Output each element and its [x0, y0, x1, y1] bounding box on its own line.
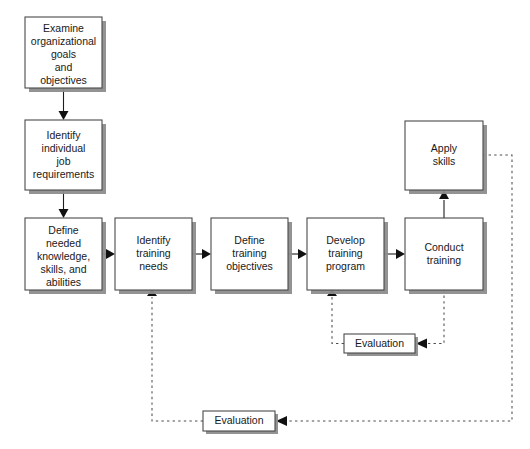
node-identify-job-requirements[interactable]: Identify individual job requirements [25, 120, 106, 194]
arrow-head-conduct-training-inlet [396, 249, 405, 259]
node-label-line: Define [234, 234, 265, 246]
node-develop-training-program[interactable]: Develop training program [307, 218, 388, 294]
node-label-line: objectives [226, 260, 273, 272]
node-label-line: Conduct [424, 241, 463, 253]
node-label-line: training [427, 254, 462, 266]
arrow-head-objectives-inlet [202, 249, 211, 259]
flowchart-canvas: Examine organizational goals and objecti… [0, 0, 530, 449]
node-label-line: goals [51, 48, 76, 60]
node-label-line: training [232, 247, 267, 259]
node-label-line: needed [46, 237, 81, 249]
node-label-line: Apply [431, 142, 458, 154]
node-examine-goals[interactable]: Examine organizational goals and objecti… [25, 17, 106, 92]
node-apply-skills[interactable]: Apply skills [405, 121, 487, 194]
arrow-head-define-knowledge-inlet [59, 209, 69, 218]
node-label-line: skills, and [40, 263, 86, 275]
node-label: Evaluation [355, 337, 404, 349]
node-label-line: training [136, 247, 171, 259]
arrow-head-develop-program-left-inlet [298, 249, 307, 259]
connector-evaluation-lower-to-training-needs [152, 297, 203, 421]
node-label-line: program [326, 260, 365, 272]
node-label-line: Develop [326, 234, 365, 246]
node-label-line: knowledge, [37, 250, 90, 262]
flowchart-svg: Examine organizational goals and objecti… [0, 0, 530, 449]
node-evaluation-lower[interactable]: Evaluation [203, 411, 278, 434]
node-label-line: Examine [43, 22, 84, 34]
node-label: Evaluation [214, 414, 263, 426]
node-label-line: organizational [31, 35, 96, 47]
node-conduct-training[interactable]: Conduct training [405, 218, 487, 294]
node-label-line: objectives [40, 74, 87, 86]
node-label-line: Identify [47, 129, 82, 141]
node-label-line: requirements [33, 168, 94, 180]
connector-conduct-training-to-evaluation-upper [428, 290, 444, 344]
node-label-line: Identify [137, 234, 172, 246]
connector-evaluation-upper-to-develop-program [332, 297, 344, 344]
node-label-line: abilities [46, 276, 81, 288]
node-define-training-objectives[interactable]: Define training objectives [211, 218, 292, 294]
node-label-line: training [328, 247, 363, 259]
node-label-line: skills [433, 155, 456, 167]
arrow-head-training-needs-left-inlet [106, 249, 115, 259]
node-label-line: and [55, 61, 73, 73]
node-label-line: job [55, 155, 70, 167]
node-label-line: individual [42, 142, 86, 154]
node-label-line: needs [139, 260, 168, 272]
node-define-knowledge[interactable]: Define needed knowledge, skills, and abi… [25, 218, 106, 294]
node-label-line: Define [48, 224, 79, 236]
arrow-head-identify-job-inlet [59, 111, 69, 120]
node-identify-training-needs[interactable]: Identify training needs [115, 218, 196, 294]
node-evaluation-upper[interactable]: Evaluation [344, 334, 418, 356]
